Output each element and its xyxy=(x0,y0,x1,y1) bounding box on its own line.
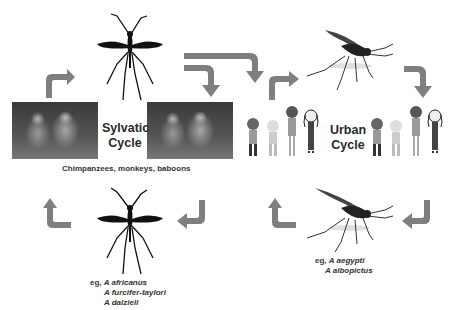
monkey-photo-left xyxy=(12,102,98,159)
vector-species: A albopictus xyxy=(325,266,373,275)
curved-arrow-icon xyxy=(43,196,73,230)
sylvatic-vector-list: eg, A africanus A furcifer-taylori A dal… xyxy=(90,278,166,308)
vector-species: A dalzieli xyxy=(104,298,138,307)
curved-arrow-icon xyxy=(400,200,432,230)
curved-arrow-icon xyxy=(268,196,298,230)
person-figure-icon xyxy=(286,106,298,162)
sylvatic-mosquito-bottom-icon xyxy=(95,186,165,276)
curved-arrow-icon xyxy=(404,66,434,100)
sylvatic-title-line1: Sylvatic xyxy=(102,121,148,136)
urban-cycle-label: Urban Cycle xyxy=(326,123,370,153)
aedes-mosquito-bottom-icon xyxy=(305,184,395,254)
vector-species: A furcifer-taylori xyxy=(104,288,166,297)
person-figure-icon xyxy=(427,109,443,159)
urban-vector-list: eg, A aegypti A albopictus xyxy=(315,256,373,276)
sylvatic-hosts-caption: Chimpanzees, monkeys, baboons xyxy=(62,164,190,173)
monkey-photo-right xyxy=(147,102,233,159)
person-figure-icon xyxy=(246,118,260,162)
curved-arrow-icon xyxy=(184,53,270,85)
sylvatic-cycle-label: Sylvatic Cycle xyxy=(102,121,148,151)
vector-species: A aegypti xyxy=(329,256,365,265)
urban-title-line2: Cycle xyxy=(326,138,370,153)
person-figure-icon xyxy=(410,106,422,162)
aedes-mosquito-top-icon xyxy=(305,22,395,92)
sylvatic-title-line2: Cycle xyxy=(102,136,148,151)
vector-species: A africanus xyxy=(104,278,147,287)
urban-title-line1: Urban xyxy=(326,123,370,138)
person-figure-icon xyxy=(370,118,384,162)
person-figure-icon xyxy=(266,120,280,162)
sylvatic-mosquito-top-icon xyxy=(95,12,165,102)
person-figure-icon xyxy=(389,120,403,162)
curved-arrow-icon xyxy=(267,70,301,100)
person-figure-icon xyxy=(303,109,319,159)
curved-arrow-icon xyxy=(43,66,77,100)
curved-arrow-icon xyxy=(175,200,207,230)
